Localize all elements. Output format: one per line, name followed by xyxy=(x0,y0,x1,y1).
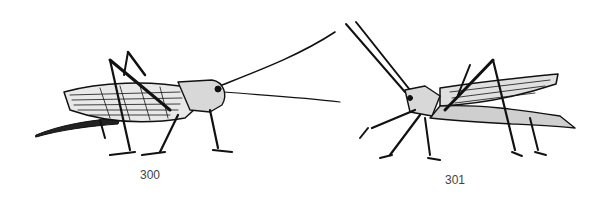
engravings xyxy=(0,0,607,202)
figure-caption-300: 300 xyxy=(140,168,160,182)
antenna-upper xyxy=(222,32,335,85)
insect-300-drawing xyxy=(36,32,340,155)
insect-301-drawing xyxy=(346,22,575,160)
antenna-left xyxy=(346,24,405,92)
ovipositor xyxy=(36,118,120,137)
figure-caption-301: 301 xyxy=(445,173,465,187)
abdomen-301 xyxy=(430,106,575,128)
illustration-plate: 300 301 xyxy=(0,0,607,202)
antenna-right xyxy=(356,22,410,90)
antenna-lower xyxy=(224,92,340,102)
wing-301 xyxy=(440,74,558,106)
